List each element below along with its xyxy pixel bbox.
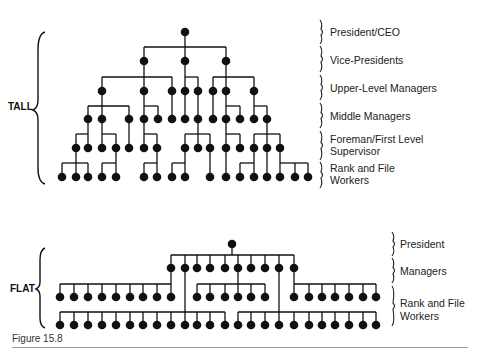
level-brace	[320, 103, 323, 128]
figure-caption: Figure 15.8	[12, 333, 63, 344]
org-node	[222, 173, 231, 182]
org-node	[250, 115, 259, 124]
org-node	[221, 321, 230, 330]
org-node	[247, 293, 256, 302]
org-node	[153, 321, 162, 330]
org-node	[250, 87, 259, 96]
org-node	[167, 293, 176, 302]
flat-left-brace	[36, 248, 45, 328]
org-node	[70, 293, 79, 302]
org-node	[70, 321, 79, 330]
level-label-foreman: Foreman/First Level	[330, 133, 423, 145]
org-node	[72, 144, 81, 153]
org-node	[290, 321, 299, 330]
org-node	[206, 173, 215, 182]
org-node	[194, 87, 203, 96]
org-node	[305, 293, 314, 302]
org-node	[372, 293, 381, 302]
org-node	[206, 144, 215, 153]
org-node	[98, 293, 107, 302]
org-node	[112, 321, 121, 330]
org-node	[331, 321, 340, 330]
org-node	[58, 173, 67, 182]
org-node	[126, 293, 135, 302]
org-node	[276, 173, 285, 182]
org-node	[181, 115, 190, 124]
level-label-president-ceo: President/CEO	[330, 26, 400, 38]
org-node	[234, 321, 243, 330]
level-label-supervisor: Supervisor	[330, 145, 380, 157]
org-node	[275, 321, 284, 330]
org-node	[167, 321, 176, 330]
org-node	[140, 87, 149, 96]
org-node	[56, 321, 65, 330]
org-node	[261, 321, 270, 330]
org-node	[209, 115, 218, 124]
org-node	[372, 321, 381, 330]
level-brace	[320, 46, 323, 72]
org-node	[290, 264, 299, 273]
caption-rule	[12, 347, 468, 348]
tall-left-brace	[33, 32, 45, 184]
org-node	[112, 173, 121, 182]
org-node	[181, 57, 190, 66]
org-node	[125, 144, 134, 153]
org-node	[140, 144, 149, 153]
org-node	[193, 293, 202, 302]
org-node	[126, 321, 135, 330]
level-label-upper-managers: Upper-Level Managers	[330, 82, 437, 94]
org-node	[153, 144, 162, 153]
level-label-workers: Workers	[330, 174, 369, 186]
org-node	[206, 321, 215, 330]
org-node	[139, 321, 148, 330]
org-node	[139, 293, 148, 302]
org-node	[167, 264, 176, 273]
org-node	[250, 144, 259, 153]
flat-label: FLAT	[10, 283, 35, 294]
org-node	[98, 87, 107, 96]
tall-label: TALL	[8, 101, 33, 112]
org-node	[193, 321, 202, 330]
org-node	[247, 321, 256, 330]
org-node	[222, 144, 231, 153]
flat-org-tree	[56, 240, 381, 330]
level-brace	[392, 258, 395, 283]
org-node	[154, 115, 163, 124]
org-node	[291, 173, 300, 182]
level-label-vice-presidents: Vice-Presidents	[330, 54, 403, 66]
org-node	[222, 115, 231, 124]
org-node	[290, 293, 299, 302]
org-node	[84, 173, 93, 182]
org-node	[206, 293, 215, 302]
org-node	[331, 293, 340, 302]
org-node	[194, 115, 203, 124]
org-node	[276, 144, 285, 153]
org-node	[98, 144, 107, 153]
org-node	[72, 173, 81, 182]
org-node	[209, 87, 218, 96]
level-brace	[320, 131, 323, 160]
org-node	[153, 293, 162, 302]
org-node	[263, 173, 272, 182]
level-brace	[320, 75, 323, 100]
org-node	[263, 144, 272, 153]
org-node	[318, 293, 327, 302]
org-node	[181, 173, 190, 182]
org-node	[261, 264, 270, 273]
org-node	[222, 57, 231, 66]
org-node	[304, 173, 313, 182]
org-node	[84, 144, 93, 153]
org-node	[98, 115, 107, 124]
org-node	[318, 321, 327, 330]
level-label-middle-managers: Middle Managers	[330, 110, 411, 122]
org-node	[181, 87, 190, 96]
org-node	[181, 264, 190, 273]
org-node	[234, 264, 243, 273]
org-node	[236, 173, 245, 182]
org-node	[168, 115, 177, 124]
org-node	[222, 87, 231, 96]
level-brace	[320, 20, 323, 44]
flat-level-label-managers: Managers	[400, 265, 447, 277]
org-node	[345, 293, 354, 302]
org-node	[84, 293, 93, 302]
